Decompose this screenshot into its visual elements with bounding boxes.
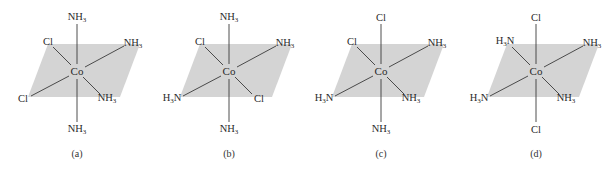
ligand-front-right: NH3 <box>402 93 421 105</box>
ligand-back-left: H3N <box>496 36 515 48</box>
ligand-front-left: H3N <box>163 93 182 105</box>
center-atom: Co <box>375 66 388 77</box>
ligand-back-left: Cl <box>195 37 205 48</box>
ligand-top: NH3 <box>220 12 239 24</box>
ligand-back-right: NH3 <box>276 38 295 50</box>
center-atom: Co <box>71 66 84 77</box>
ligand-back-left: Cl <box>43 37 53 48</box>
ligand-top: Cl <box>531 13 541 24</box>
ligand-front-left: H3N <box>315 93 334 105</box>
ligand-front-left: Cl <box>18 94 28 105</box>
panel-a: CoNH3NH3ClNH3ClNH3(a) <box>0 0 154 170</box>
ligand-back-right: NH3 <box>583 38 602 50</box>
ligand-bottom: NH3 <box>220 124 239 136</box>
center-atom: Co <box>530 66 543 77</box>
ligand-back-left: Cl <box>347 37 357 48</box>
panel-d: CoClClH3NNH3H3NNH3(d) <box>459 0 613 170</box>
ligand-front-right: NH3 <box>98 93 117 105</box>
ligand-front-left: H3N <box>470 93 489 105</box>
ligand-bottom: NH3 <box>372 124 391 136</box>
panel-caption: (c) <box>375 148 386 159</box>
ligand-back-right: NH3 <box>428 38 447 50</box>
octahedral-isomers-figure: CoNH3NH3ClNH3ClNH3(a) CoNH3NH3ClNH3H3NCl… <box>0 0 616 170</box>
panel-caption: (d) <box>530 148 542 159</box>
octahedron-drawing <box>152 0 306 170</box>
ligand-front-right: NH3 <box>557 93 576 105</box>
ligand-bottom: Cl <box>531 125 541 136</box>
ligand-top: Cl <box>376 13 386 24</box>
panel-caption: (b) <box>223 148 235 159</box>
panel-caption: (a) <box>71 148 82 159</box>
octahedron-drawing <box>304 0 458 170</box>
panel-c: CoClNH3ClNH3H3NNH3(c) <box>304 0 458 170</box>
ligand-back-right: NH3 <box>124 38 143 50</box>
ligand-front-right: Cl <box>254 94 264 105</box>
octahedron-drawing <box>459 0 613 170</box>
ligand-bottom: NH3 <box>68 124 87 136</box>
octahedron-drawing <box>0 0 154 170</box>
center-atom: Co <box>223 66 236 77</box>
ligand-top: NH3 <box>68 12 87 24</box>
panel-b: CoNH3NH3ClNH3H3NCl(b) <box>152 0 306 170</box>
